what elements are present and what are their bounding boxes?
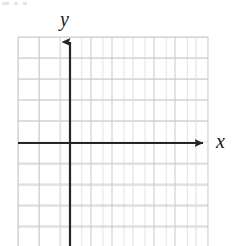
x-axis-label: x — [216, 131, 225, 151]
graph-grid-svg — [0, 0, 235, 246]
coordinate-plane-figure: y x — [0, 0, 235, 246]
grid-lines — [18, 37, 208, 246]
y-axis-label: y — [60, 9, 69, 29]
